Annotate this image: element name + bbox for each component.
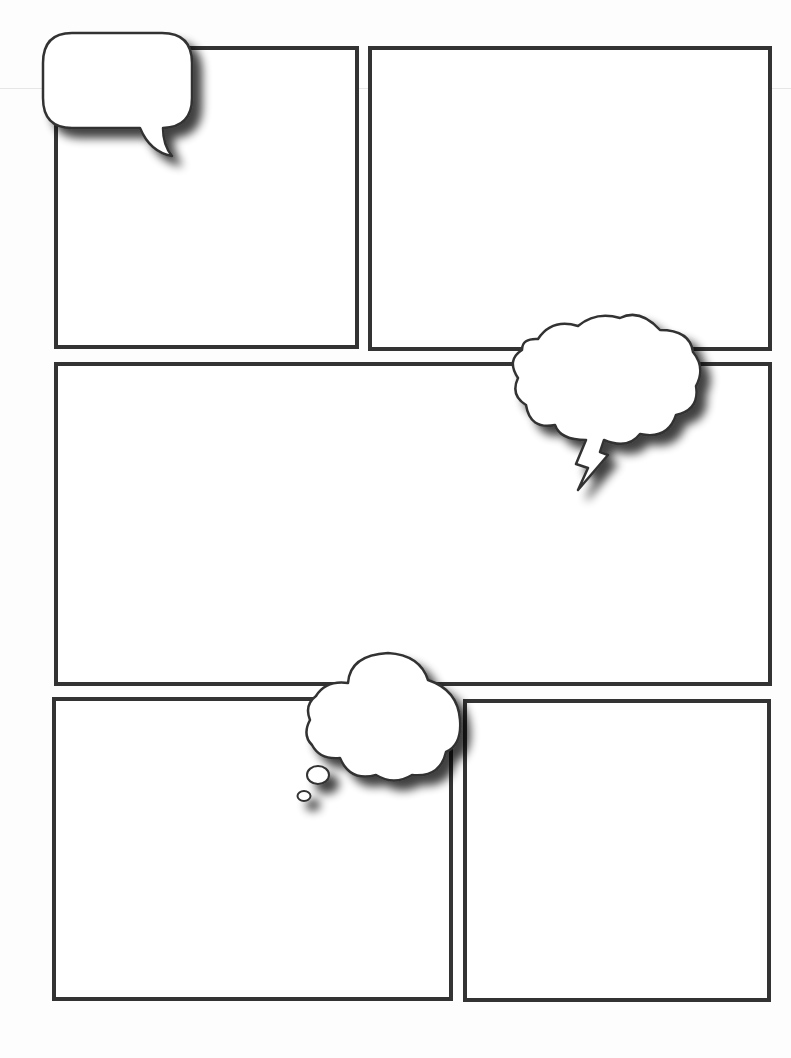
comic-layout bbox=[0, 0, 791, 1058]
panels bbox=[54, 48, 770, 1000]
thought-dot-small bbox=[298, 791, 311, 801]
comic-page bbox=[0, 0, 791, 1058]
panel-5[interactable] bbox=[465, 701, 769, 1000]
panel-2[interactable] bbox=[370, 48, 770, 349]
thought-dot-large bbox=[307, 766, 329, 784]
